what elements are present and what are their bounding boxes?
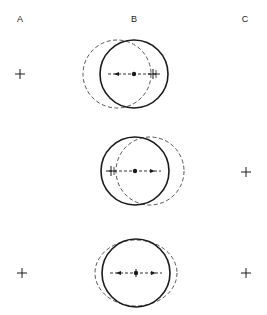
- arrow-left-icon: [116, 271, 121, 275]
- center-dot: [132, 72, 136, 76]
- arrow-left-icon: [114, 72, 119, 76]
- diagram: A B C: [0, 0, 267, 315]
- arrow-right-icon: [151, 271, 156, 275]
- arrow-right-icon: [150, 169, 155, 173]
- center-dot: [133, 169, 137, 173]
- circle-diagram: [0, 0, 267, 315]
